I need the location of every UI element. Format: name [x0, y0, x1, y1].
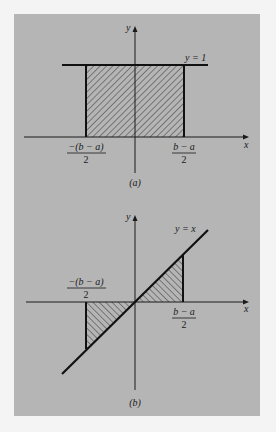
- panel-a: y x y = 1 −(b − a) 2 b − a 2 (a): [24, 22, 249, 189]
- x-axis-label: x: [243, 303, 249, 314]
- x-axis-label: x: [243, 139, 249, 150]
- right-bound-numerator: b − a: [173, 141, 195, 152]
- left-bound-numerator: −(b − a): [68, 141, 104, 153]
- y-axis-label: y: [125, 211, 131, 222]
- right-bound-numerator: b − a: [173, 306, 195, 317]
- right-bound-denominator: 2: [182, 154, 187, 165]
- panel-b: y x y = x −(b − a) 2 b − a 2 (b): [26, 211, 249, 409]
- left-bound-denominator: 2: [84, 289, 89, 300]
- panel-caption: (a): [129, 177, 141, 189]
- y-axis-arrow-icon: [133, 215, 138, 221]
- panel-caption: (b): [129, 397, 141, 409]
- y-axis-label: y: [125, 22, 131, 33]
- curve-label: y = x: [174, 223, 196, 234]
- left-bound-numerator: −(b − a): [68, 276, 104, 288]
- curve-label: y = 1: [184, 52, 206, 63]
- figure-diagram: y x y = 1 −(b − a) 2 b − a 2 (a) y x y =…: [0, 0, 276, 432]
- y-axis-arrow-icon: [133, 26, 138, 32]
- right-bound-denominator: 2: [182, 319, 187, 330]
- left-bound-denominator: 2: [84, 154, 89, 165]
